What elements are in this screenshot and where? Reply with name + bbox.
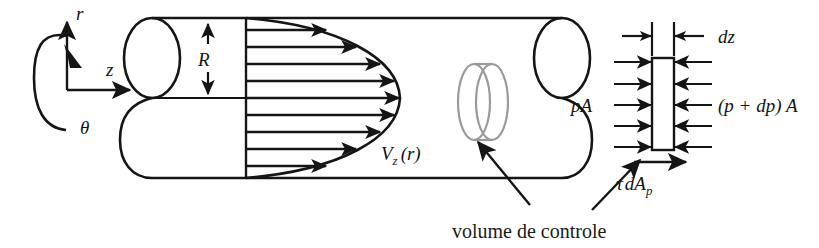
downstream-pressure-arrows (675, 62, 712, 147)
leader-to-control-volume (478, 142, 530, 205)
theta-axis-label: θ (80, 117, 89, 138)
fluid-mechanics-diagram: r z θ R (0, 0, 819, 248)
coordinate-system (34, 22, 130, 130)
control-volume-caption: volume de controle (452, 220, 607, 242)
velocity-profile-label: Vz(r) (381, 143, 421, 168)
free-body-diagram (614, 22, 712, 162)
fluid-element-box (652, 58, 674, 150)
velocity-profile-label-sub: z (392, 153, 398, 168)
velocity-profile-label-arg: (r) (401, 143, 421, 165)
pipe-right-outlet-ellipse (534, 18, 590, 98)
control-volume-back-face (458, 64, 490, 140)
theta-arc (34, 35, 68, 130)
r-axis-label: r (76, 3, 84, 24)
control-volume-disk (458, 64, 508, 140)
shear-stress-label-sub: p (645, 183, 653, 198)
shear-stress-label-tau: τ (616, 173, 624, 194)
pipe-left-inlet-ellipse (124, 18, 180, 98)
upstream-pressure-arrows (614, 62, 651, 147)
radius-label: R (197, 49, 210, 70)
shear-stress-label: τdAp (616, 173, 653, 198)
dz-label: dz (718, 26, 736, 47)
downstream-pressure-label: (p + dp) A (718, 95, 798, 117)
z-axis-label: z (105, 59, 114, 80)
diagram-canvas: r z θ R (0, 0, 819, 248)
shear-stress-label-rest: dA (625, 173, 647, 194)
velocity-profile (246, 18, 400, 178)
control-volume-front-face (476, 64, 508, 140)
velocity-arrows (246, 30, 399, 166)
pipe-left-lower-curve (120, 98, 152, 178)
upstream-pressure-label: pA (569, 95, 593, 116)
